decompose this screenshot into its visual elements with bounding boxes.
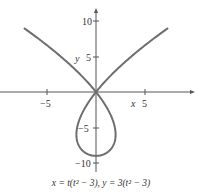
y-tick-label-neg10: −10 [75, 158, 91, 169]
x-tick-label-neg5: −5 [40, 98, 51, 109]
y-tick-label-neg5: −5 [78, 123, 89, 134]
x-tick-label-5: 5 [142, 98, 147, 109]
chart-caption: x = t(t² − 3), y = 3(t² − 3) [0, 178, 202, 188]
y-tick-label-5: 5 [86, 52, 91, 63]
y-axis-arrow-icon [94, 8, 98, 13]
y-axis-label: y [74, 53, 80, 64]
y-tick-label-10: 10 [82, 16, 92, 27]
x-axis-label: x [130, 98, 136, 109]
x-axis-arrow-icon [190, 90, 195, 94]
chart-canvas: −5 5 10 5 −5 −10 y x [0, 0, 202, 196]
